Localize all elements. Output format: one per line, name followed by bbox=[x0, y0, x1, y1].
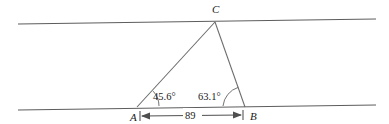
angle-label-b: 63.1° bbox=[198, 91, 221, 102]
vertex-label-a: A bbox=[129, 111, 137, 123]
vertex-label-b: B bbox=[250, 110, 257, 122]
diagram-canvas: 45.6° 63.1° C A B 89 bbox=[0, 0, 389, 124]
dimension-arrowhead-left bbox=[141, 113, 150, 120]
angle-arc-b bbox=[223, 87, 238, 106]
dimension-arrowhead-right bbox=[233, 112, 242, 119]
angle-label-a: 45.6° bbox=[153, 91, 176, 102]
upper-parallel-line bbox=[18, 19, 376, 24]
geometry-figure: 45.6° 63.1° C A B 89 bbox=[0, 0, 389, 124]
vertex-label-c: C bbox=[212, 3, 220, 15]
dimension-label: 89 bbox=[185, 110, 196, 121]
